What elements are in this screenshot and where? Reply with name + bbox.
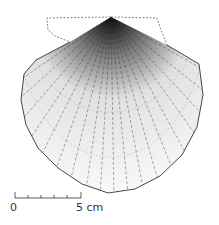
shell-figure: 0 5 cm bbox=[0, 0, 219, 225]
scale-bar bbox=[15, 192, 81, 198]
scale-start-label: 0 bbox=[10, 201, 17, 214]
scale-end-label: 5 cm bbox=[76, 201, 103, 214]
shell-body bbox=[0, 0, 219, 225]
